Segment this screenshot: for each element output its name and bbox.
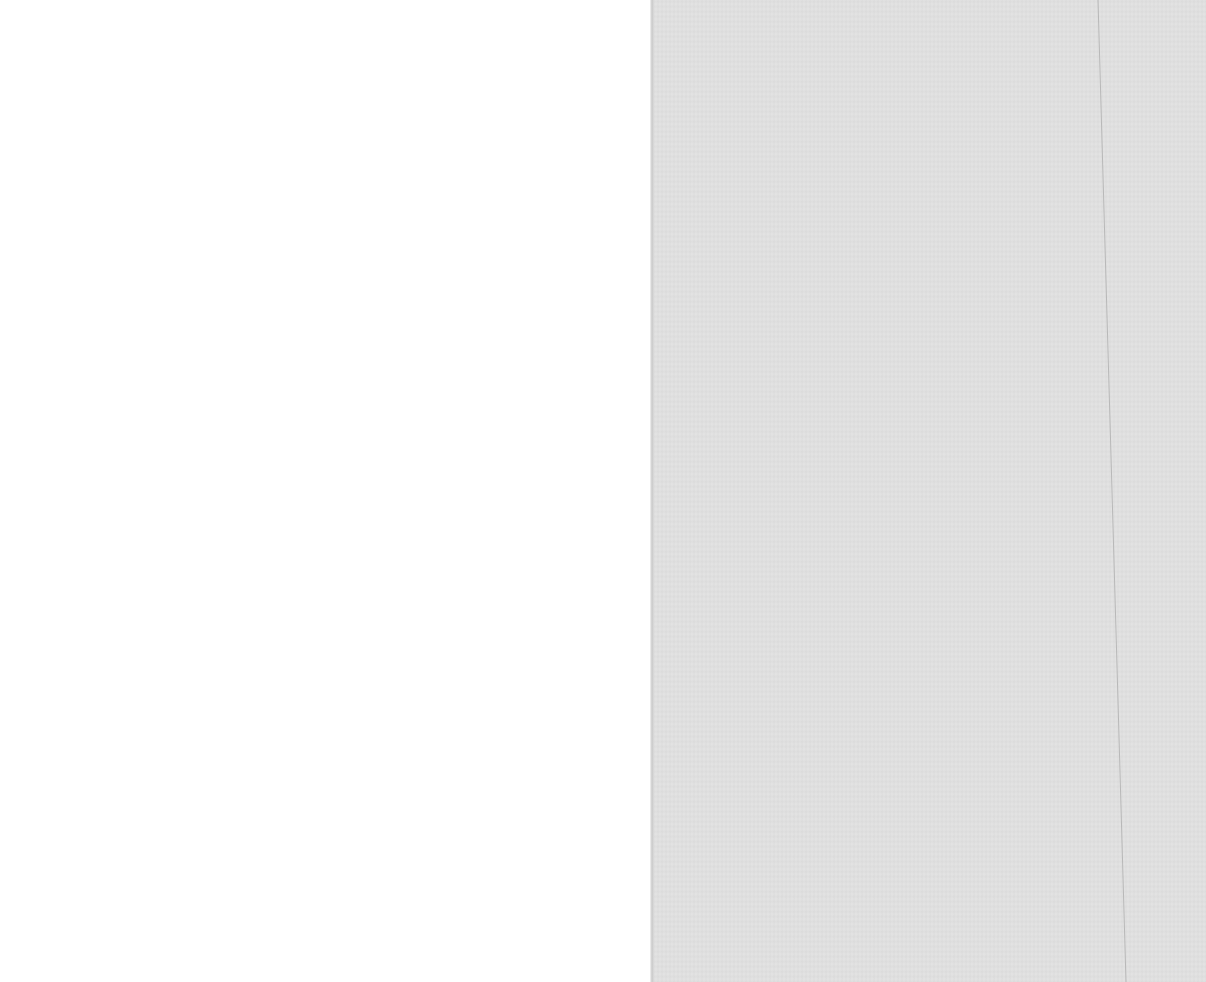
left-page [0,0,652,982]
right-page [652,0,1206,982]
page-edge [650,0,654,982]
page-spread [0,0,1206,982]
